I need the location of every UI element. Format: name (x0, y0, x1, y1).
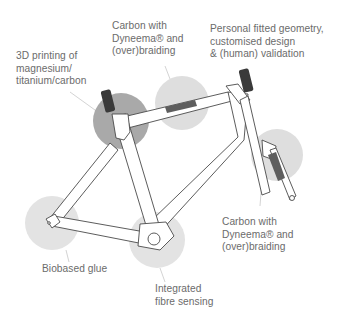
callout-line: fibre sensing (155, 296, 213, 309)
callout-line: & (human) validation (210, 48, 324, 61)
callout-line: Personal fitted geometry, (210, 23, 324, 36)
callout-line: Biobased glue (42, 263, 107, 276)
callout-line: (over)braiding (112, 45, 184, 58)
callout-line: customised design (210, 36, 324, 49)
callout-biobased-glue: Biobased glue (42, 263, 107, 276)
callout-line: magnesium/ (16, 63, 86, 76)
callout-line: Integrated (155, 283, 213, 296)
callout-carbon-dyneema-fork: Carbon with Dyneema® and (over)braiding (222, 216, 294, 254)
callout-fibre-sensing: Integrated fibre sensing (155, 283, 213, 308)
callout-line: Dyneema® and (112, 33, 184, 46)
callout-carbon-dyneema-top: Carbon with Dyneema® and (over)braiding (112, 20, 184, 58)
callout-line: (over)braiding (222, 241, 294, 254)
callout-3d-printing: 3D printing of magnesium/ titanium/carbo… (16, 50, 86, 88)
callout-line: titanium/carbon (16, 75, 86, 88)
callout-line: Carbon with (222, 216, 294, 229)
callout-personal-geometry: Personal fitted geometry, customised des… (210, 23, 324, 61)
bike-frame-diagram: 3D printing of magnesium/ titanium/carbo… (0, 0, 340, 323)
callout-line: Carbon with (112, 20, 184, 33)
callout-line: Dyneema® and (222, 229, 294, 242)
callout-line: 3D printing of (16, 50, 86, 63)
